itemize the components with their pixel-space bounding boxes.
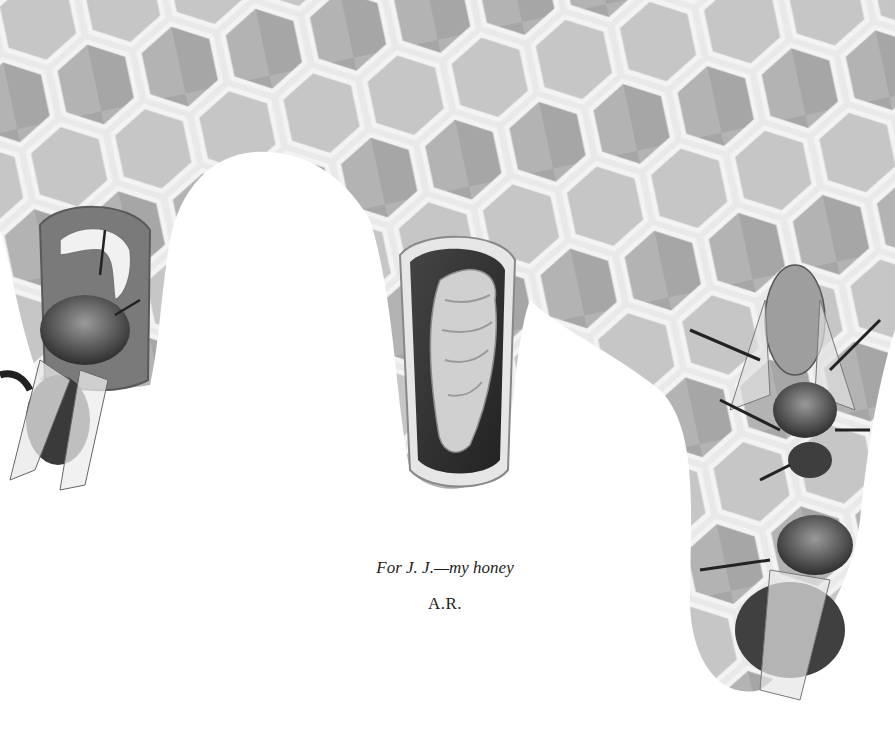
dedication: For J. J.—my honey A.R. <box>330 556 560 616</box>
dedication-text: For J. J.—my honey <box>330 556 560 580</box>
book-page: For J. J.—my honey A.R. <box>0 0 895 752</box>
honeycomb-illustration <box>0 0 895 752</box>
center-pupa-cell <box>400 237 515 487</box>
author-initials: A.R. <box>330 592 560 616</box>
